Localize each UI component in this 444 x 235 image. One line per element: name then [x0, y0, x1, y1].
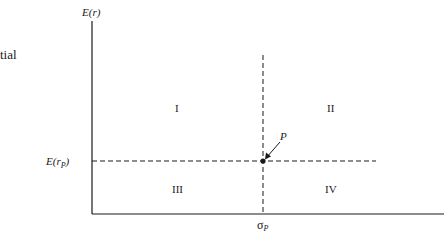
- y-marker-label-suffix: ): [65, 155, 70, 168]
- x-marker-label: σP: [257, 218, 268, 233]
- y-marker-label-main: E(r: [45, 155, 61, 168]
- side-text: tial: [0, 47, 17, 62]
- point-p: [260, 158, 265, 163]
- x-marker-label-sub: P: [262, 224, 268, 233]
- quadrant-label-ii: II: [327, 102, 335, 114]
- quadrant-label-iv: IV: [325, 183, 337, 195]
- quadrant-label-iii: III: [172, 183, 183, 195]
- quadrant-diagram: tial E(r) P E(rP) σP I II III IV: [0, 0, 444, 235]
- point-p-label: P: [279, 130, 287, 142]
- y-axis-label: E(r): [81, 6, 101, 19]
- quadrant-label-i: I: [175, 102, 179, 114]
- y-marker-label: E(rP): [45, 155, 70, 170]
